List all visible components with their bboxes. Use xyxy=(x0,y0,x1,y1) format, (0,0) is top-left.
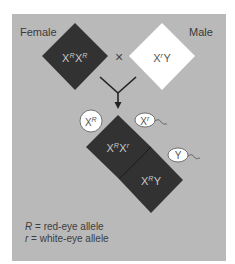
sperm-xr-genotype: Xr xyxy=(140,115,150,127)
sperm-y-genotype: Y xyxy=(175,151,182,161)
merge-arrow-icon xyxy=(100,77,136,103)
legend-red-eye: R = red-eye allele xyxy=(25,221,104,232)
sperm-y-icon xyxy=(168,148,200,162)
female-genotype: XRXR xyxy=(62,52,88,64)
egg-genotype: XR xyxy=(85,116,97,128)
offspring-male-genotype: XRY xyxy=(141,175,161,187)
legend-white-eye: r = white-eye allele xyxy=(25,233,109,244)
male-label: Male xyxy=(189,26,213,38)
cross-symbol: × xyxy=(115,50,123,64)
arrowhead-icon xyxy=(115,102,122,109)
female-label: Female xyxy=(20,26,57,38)
offspring-female-genotype: XRXr xyxy=(106,142,129,154)
male-genotype: XrY xyxy=(153,52,171,64)
